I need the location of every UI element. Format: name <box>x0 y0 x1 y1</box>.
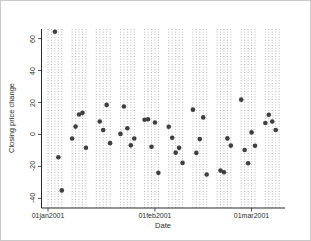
data-point <box>173 150 178 155</box>
data-point <box>253 143 258 148</box>
data-point <box>53 29 58 34</box>
data-point <box>166 124 171 129</box>
data-point <box>156 171 161 176</box>
data-point <box>153 120 158 125</box>
y-axis-title: Closing price change <box>8 83 16 153</box>
data-point <box>56 155 61 160</box>
data-point <box>239 97 244 102</box>
data-point <box>122 104 127 109</box>
chart-window: -40-20020406001jan200101feb200101mar2001… <box>0 0 311 241</box>
data-point <box>108 141 113 146</box>
data-point <box>84 145 89 150</box>
data-point <box>146 117 151 122</box>
data-point <box>225 136 230 141</box>
data-point <box>125 126 130 131</box>
data-point <box>249 130 254 135</box>
data-point <box>270 119 275 124</box>
data-point <box>101 128 106 133</box>
data-point <box>70 136 75 141</box>
data-point <box>104 103 109 108</box>
data-point <box>73 124 78 129</box>
scatter-plot-canvas <box>1 1 311 241</box>
data-point <box>129 143 134 148</box>
data-point <box>267 112 272 117</box>
data-point <box>180 161 185 166</box>
data-point <box>194 151 199 156</box>
data-point <box>204 172 209 177</box>
data-point <box>177 146 182 151</box>
data-point <box>170 135 175 140</box>
data-point <box>60 188 65 193</box>
data-point <box>263 121 268 126</box>
data-point <box>97 119 102 124</box>
data-point <box>229 143 234 148</box>
data-point <box>118 132 123 137</box>
data-point <box>222 170 227 175</box>
data-point <box>149 145 154 150</box>
data-point <box>198 137 203 142</box>
data-point <box>273 128 278 133</box>
data-point <box>242 148 247 153</box>
data-point <box>191 107 196 112</box>
x-axis-title: Date <box>155 222 171 230</box>
data-point <box>132 136 137 141</box>
data-point <box>246 161 251 166</box>
data-point <box>201 115 206 120</box>
data-point <box>80 111 85 116</box>
